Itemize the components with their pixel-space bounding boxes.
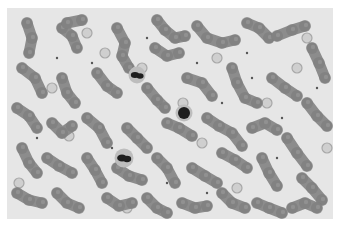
rbc-pallor xyxy=(296,93,300,97)
rbc-pallor xyxy=(166,120,170,124)
platelet xyxy=(246,52,248,54)
rbc-pallor xyxy=(271,75,275,79)
rbc-pallor xyxy=(51,120,55,124)
pale-cell xyxy=(232,183,242,193)
blood-smear-image xyxy=(7,8,333,219)
rbc-pallor xyxy=(206,35,210,39)
rbc-pallor xyxy=(246,165,250,169)
pale-cell xyxy=(212,53,222,63)
rbc-pallor xyxy=(61,130,65,134)
rbc-pallor xyxy=(28,113,32,117)
rbc-pallor xyxy=(166,165,170,169)
rbc-pallor xyxy=(311,185,315,189)
rbc-pallor xyxy=(146,85,150,89)
pale-cell xyxy=(302,33,312,43)
platelet xyxy=(276,157,278,159)
rbc-pallor xyxy=(174,35,178,39)
rbc-pallor xyxy=(306,100,310,104)
pale-cell xyxy=(197,138,207,148)
rbc-pallor xyxy=(141,177,145,181)
rbc-pallor xyxy=(28,50,32,54)
rbc-pallor xyxy=(261,155,265,159)
pale-cell xyxy=(262,98,272,108)
rbc-pallor xyxy=(164,27,168,31)
pale-cell xyxy=(292,63,302,73)
rbc-pallor xyxy=(268,205,272,209)
platelet xyxy=(316,87,318,89)
rbc-pallor xyxy=(186,75,190,79)
rbc-pallor xyxy=(124,40,128,44)
rbc-pallor xyxy=(184,33,188,37)
rbc-pallor xyxy=(166,53,170,57)
rbc-pallor xyxy=(191,165,195,169)
rbc-pallor xyxy=(178,50,182,54)
rbc-pallor xyxy=(106,83,110,87)
rbc-pallor xyxy=(156,17,160,21)
rbc-pallor xyxy=(61,75,65,79)
rbc-pallor xyxy=(244,205,248,209)
rbc-pallor xyxy=(164,105,168,109)
wbc-nucleus-lobe xyxy=(123,156,131,162)
smear-canvas xyxy=(7,8,333,219)
rbc-pallor xyxy=(156,155,160,159)
rbc-pallor xyxy=(296,150,300,154)
rbc-pallor xyxy=(128,173,132,177)
rbc-pallor xyxy=(36,125,40,129)
platelet xyxy=(36,137,38,139)
rbc-pallor xyxy=(231,200,235,204)
rbc-pallor xyxy=(121,53,125,57)
wbc-nucleus-lobe xyxy=(136,73,143,78)
rbc-pallor xyxy=(74,100,78,104)
rbc-pallor xyxy=(96,70,100,74)
rbc-pallor xyxy=(291,27,295,31)
rbc-pallor xyxy=(16,105,20,109)
rbc-pallor xyxy=(204,173,208,177)
rbc-pallor xyxy=(71,123,75,127)
pale-cell xyxy=(14,178,24,188)
rbc-pallor xyxy=(41,200,45,204)
rbc-pallor xyxy=(58,163,62,167)
rbc-pallor xyxy=(156,205,160,209)
rbc-pallor xyxy=(66,90,70,94)
rbc-pallor xyxy=(78,205,82,209)
rbc-pallor xyxy=(321,197,325,201)
rbc-pallor xyxy=(118,203,122,207)
rbc-pallor xyxy=(178,125,182,129)
rbc-pallor xyxy=(241,143,245,147)
rbc-pallor xyxy=(146,195,150,199)
rbc-pallor xyxy=(166,210,170,214)
platelet xyxy=(206,192,208,194)
rbc-pallor xyxy=(71,33,75,37)
rbc-pallor xyxy=(16,190,20,194)
rbc-pallor xyxy=(231,65,235,69)
rbc-pallor xyxy=(311,45,315,49)
rbc-pallor xyxy=(34,75,38,79)
rbc-pallor xyxy=(116,25,120,29)
rbc-pallor xyxy=(76,45,80,49)
pale-cell xyxy=(100,48,110,58)
rbc-pallor xyxy=(276,183,280,187)
platelet xyxy=(196,62,198,64)
rbc-pallor xyxy=(156,97,160,101)
rbc-pallor xyxy=(291,205,295,209)
rbc-pallor xyxy=(94,167,98,171)
rbc-pallor xyxy=(256,100,260,104)
rbc-pallor xyxy=(66,200,70,204)
rbc-pallor xyxy=(231,130,235,134)
rbc-pallor xyxy=(316,205,320,209)
rbc-pallor xyxy=(234,157,238,161)
rbc-pallor xyxy=(194,205,198,209)
rbc-pallor xyxy=(304,23,308,27)
platelet xyxy=(166,182,168,184)
rbc-pallor xyxy=(244,95,248,99)
rbc-pallor xyxy=(98,125,102,129)
rbc-pallor xyxy=(251,125,255,129)
rbc-pallor xyxy=(268,170,272,174)
rbc-pallor xyxy=(206,115,210,119)
pale-cell xyxy=(322,143,332,153)
rbc-pallor xyxy=(221,150,225,154)
rbc-pallor xyxy=(136,135,140,139)
rbc-pallor xyxy=(304,200,308,204)
rbc-pallor xyxy=(146,145,150,149)
rbc-pallor xyxy=(234,37,238,41)
